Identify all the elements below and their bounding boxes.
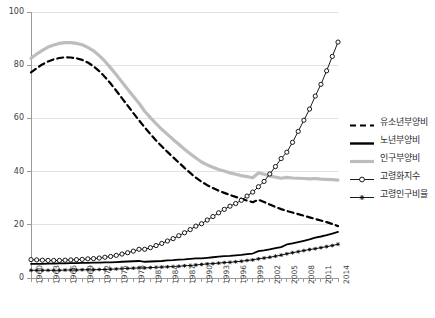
legend-label: 노년부양비	[380, 133, 420, 146]
legend-label: 고령화지수	[380, 169, 420, 182]
x-axis-tick-label: 1978	[137, 265, 146, 284]
x-axis-tick-label: 1990	[205, 265, 214, 284]
axis-lines	[31, 12, 338, 278]
x-axis-tick-label: 1996	[239, 265, 248, 284]
circle-line-marker	[349, 170, 375, 181]
data-series	[29, 40, 340, 272]
x-axis-tick-label: 1963	[52, 265, 61, 284]
solid-line-marker	[349, 134, 375, 145]
legend-item[interactable]: 인구부양비	[349, 152, 428, 163]
chart-container: 020406080100 196019631966196919721975197…	[0, 0, 435, 318]
legend-label: 유소년부양비	[380, 115, 428, 128]
chart-legend: 유소년부양비노년부양비인구부양비고령화지수고령인구비율	[349, 116, 428, 199]
x-axis-tick-label: 2011	[324, 265, 333, 284]
dashed-line-marker	[349, 116, 375, 127]
x-axis-tick-label: 1960	[35, 265, 44, 284]
legend-item[interactable]: 유소년부양비	[349, 116, 428, 127]
y-axis-tick-label: 60	[2, 113, 24, 122]
legend-label: 고령인구비율	[380, 187, 428, 200]
x-axis-tick-label: 1975	[120, 265, 129, 284]
y-axis-tick-label: 20	[2, 220, 24, 229]
x-axis-tick-label: 1966	[69, 265, 78, 284]
y-axis-tick-label: 40	[2, 167, 24, 176]
x-axis-tick-label: 1999	[256, 265, 265, 284]
x-axis-tick-label: 2005	[290, 265, 299, 284]
x-axis-tick-label: 1984	[171, 265, 180, 284]
legend-item[interactable]: 노년부양비	[349, 134, 428, 145]
legend-label: 인구부양비	[380, 151, 420, 164]
y-axis-tick-label: 0	[2, 273, 24, 282]
legend-item[interactable]: 고령인구비율	[349, 188, 428, 199]
gray-line-marker	[349, 152, 375, 163]
grid-lines	[31, 12, 338, 278]
x-axis-tick-label: 1981	[154, 265, 163, 284]
legend-item[interactable]: 고령화지수	[349, 170, 428, 181]
x-axis-tick-label: 2008	[307, 265, 316, 284]
x-axis-tick-label: 2014	[342, 265, 351, 284]
x-axis-tick-label: 2002	[273, 265, 282, 284]
y-axis-tick-label: 80	[2, 60, 24, 69]
star-line-marker	[349, 188, 375, 199]
x-axis-tick-label: 1987	[188, 265, 197, 284]
x-axis-tick-label: 1969	[86, 265, 95, 284]
x-axis-tick-label: 1993	[222, 265, 231, 284]
x-axis-tick-label: 1972	[103, 265, 112, 284]
y-axis-tick-label: 100	[2, 7, 24, 16]
